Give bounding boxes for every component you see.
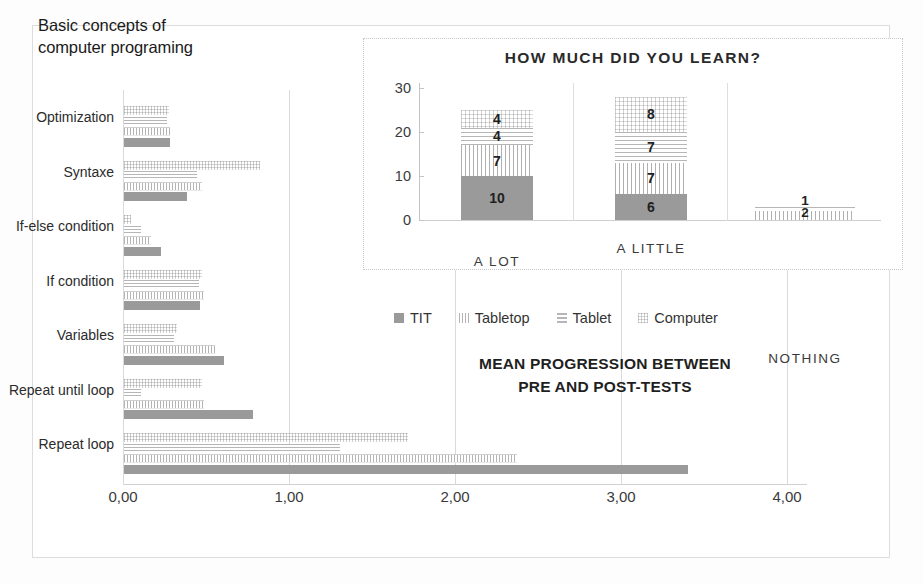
legend-item-tit[interactable]: TIT: [394, 310, 432, 326]
stacked-column: 6778A LITTLE: [615, 97, 687, 220]
legend-item-label: Tabletop: [475, 310, 530, 326]
inset-y-tick-mark: [419, 88, 424, 89]
legend-item-computer[interactable]: Computer: [638, 310, 718, 326]
data-label: 7: [615, 139, 687, 155]
chart-subtitle-line1: MEAN PROGRESSION BETWEEN: [479, 355, 731, 372]
legend-item-tabletop[interactable]: Tabletop: [459, 310, 530, 326]
bar-tabletop: [124, 291, 204, 300]
bar-computer: [124, 106, 169, 115]
chart-subtitle-line2: PRE AND POST-TESTS: [518, 378, 692, 395]
bar-tablet: [124, 171, 197, 180]
stack-body: 10744: [461, 110, 533, 220]
stack-segment-tabletop: 7: [615, 163, 687, 194]
stack-body: 6778: [615, 97, 687, 220]
inset-y-tick-mark: [419, 176, 424, 177]
bar-computer: [124, 215, 131, 224]
inset-plot-area: 010203010744A LOT6778A LITTLE12NOTHING: [419, 83, 881, 221]
x-axis-tick-label: 1,00: [274, 488, 303, 505]
page-title-line2: computer programing: [38, 38, 193, 56]
stacked-column: 12NOTHING: [755, 207, 855, 220]
bar-tablet: [124, 444, 340, 453]
bar-tabletop: [124, 454, 517, 463]
y-axis-category-label: Syntaxe: [0, 164, 114, 181]
bar-tit: [124, 356, 224, 365]
y-axis-category-label: If condition: [0, 273, 114, 290]
stack-segment-computer: 8: [615, 97, 687, 132]
chart-subtitle: MEAN PROGRESSION BETWEEN PRE AND POST-TE…: [405, 352, 805, 398]
bar-computer: [124, 270, 202, 279]
inset-y-axis-tick-label: 30: [395, 80, 411, 96]
bar-tabletop: [124, 345, 215, 354]
bar-tablet: [124, 389, 141, 398]
y-axis-category-label: Optimization: [0, 109, 114, 126]
y-axis-category-label: Repeat until loop: [0, 382, 114, 399]
bar-group: Repeat loop: [123, 427, 807, 482]
bar-tit: [124, 301, 200, 310]
stack-segment-tabletop: 7: [461, 145, 533, 176]
data-label: 7: [615, 170, 687, 186]
stacked-column: 10744A LOT: [461, 110, 533, 220]
stack-segment-tablet: 7: [615, 132, 687, 163]
bar-tabletop: [124, 400, 204, 409]
stack-segment-tit: 10: [461, 176, 533, 220]
x-axis-tick-label: 2,00: [440, 488, 469, 505]
inset-x-axis-category-label: NOTHING: [755, 351, 855, 366]
x-axis-line: [123, 484, 807, 485]
stack-segment-tit: 6: [615, 194, 687, 220]
y-axis-category-label: Variables: [0, 327, 114, 344]
data-label: 4: [461, 111, 533, 127]
horizontal-line-swatch-icon: [557, 313, 567, 323]
chart-canvas: Basic concepts ofcomputer programing Opt…: [0, 0, 923, 584]
x-axis-tick-label: 0,00: [108, 488, 137, 505]
inset-y-tick-mark: [419, 132, 424, 133]
y-axis-category-label: Repeat loop: [0, 436, 114, 453]
inset-y-tick-mark: [419, 220, 424, 221]
stack-segment-tablet: 4: [461, 128, 533, 146]
bar-computer: [124, 161, 260, 170]
data-label: 10: [461, 190, 533, 206]
vertical-hatch-swatch-icon: [459, 313, 469, 323]
data-label: 4: [461, 128, 533, 144]
x-axis-tick-label: 3,00: [606, 488, 635, 505]
bar-tablet: [124, 335, 174, 344]
page-title-line1: Basic concepts of: [38, 16, 166, 34]
bar-tablet: [124, 226, 141, 235]
inset-y-axis-tick-label: 0: [403, 212, 411, 228]
bar-tabletop: [124, 182, 202, 191]
data-label: 2: [801, 205, 809, 220]
inset-category-separator-0: [573, 83, 574, 221]
bar-tit: [124, 192, 187, 201]
bar-computer: [124, 433, 408, 442]
legend: TITTabletopTabletComputer: [394, 310, 718, 326]
inset-chart-title: HOW MUCH DID YOU LEARN?: [364, 49, 902, 67]
legend-item-tablet[interactable]: Tablet: [557, 310, 612, 326]
page-title: Basic concepts ofcomputer programing: [38, 14, 338, 58]
legend-item-label: Tablet: [573, 310, 612, 326]
solid-gray-swatch-icon: [394, 313, 404, 323]
data-label: 6: [615, 199, 687, 215]
bar-computer: [124, 379, 202, 388]
legend-item-label: TIT: [410, 310, 432, 326]
inset-y-axis-tick-label: 20: [395, 124, 411, 140]
bar-computer: [124, 324, 177, 333]
bar-tabletop: [124, 236, 151, 245]
legend-item-label: Computer: [654, 310, 718, 326]
inset-y-axis-line: [419, 83, 420, 221]
dotted-swatch-icon: [638, 313, 648, 323]
bar-tit: [124, 465, 688, 474]
inset-chart: HOW MUCH DID YOU LEARN? 010203010744A LO…: [363, 38, 903, 270]
data-label: 8: [615, 106, 687, 122]
bar-tit: [124, 138, 170, 147]
inset-x-axis-category-label: A LOT: [461, 254, 533, 269]
inset-x-axis-category-label: A LITTLE: [615, 241, 687, 256]
inset-category-separator-1: [727, 83, 728, 221]
data-label: 7: [461, 153, 533, 169]
bar-tablet: [124, 280, 199, 289]
inset-x-axis-line: [419, 220, 881, 221]
bar-tit: [124, 247, 161, 256]
stack-segment-computer: 4: [461, 110, 533, 128]
bar-tablet: [124, 117, 167, 126]
bar-tabletop: [124, 127, 170, 136]
inset-y-axis-tick-label: 10: [395, 168, 411, 184]
bar-tit: [124, 410, 253, 419]
